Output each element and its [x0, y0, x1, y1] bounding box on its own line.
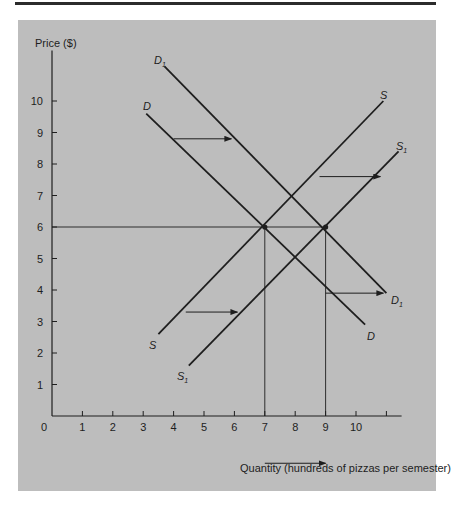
x-tick-label: 6 [231, 421, 237, 433]
y-tick-label: 5 [37, 253, 43, 265]
x-tick-label: 4 [171, 421, 177, 433]
y-tick-label: 9 [37, 127, 43, 139]
x-tick-label: 8 [292, 421, 298, 433]
x-tick-label: 7 [262, 421, 268, 433]
y-tick-label: 1 [37, 379, 43, 391]
y-tick-label: 10 [31, 95, 43, 107]
y-axis-title: Price ($) [35, 37, 77, 49]
x-tick-label: 9 [323, 421, 329, 433]
equilibrium-point [323, 224, 328, 229]
equilibrium-guides [52, 227, 326, 416]
curve-s [158, 101, 383, 334]
curve-label-d1: D1 [154, 54, 166, 68]
curves [146, 66, 398, 365]
x-tick-label: 3 [140, 421, 146, 433]
y-tick-label: 6 [37, 221, 43, 233]
curve-label-d: D [143, 100, 151, 112]
x-tick-label: 0 [41, 421, 47, 433]
curve-label-d1: D1 [391, 294, 403, 308]
y-tick-label: 7 [37, 190, 43, 202]
x-tick-label: 10 [350, 421, 362, 433]
y-tick-label: 2 [37, 347, 43, 359]
x-tick-label: 1 [79, 421, 85, 433]
x-axis-title: Quantity (hundreds of pizzas per semeste… [240, 462, 451, 474]
curve-label-s1: S1 [396, 140, 407, 154]
curve-label-s1: S1 [177, 370, 188, 384]
x-tick-label: 2 [110, 421, 116, 433]
y-tick-label: 4 [37, 284, 43, 296]
y-tick-label: 3 [37, 316, 43, 328]
curve-label-s: S [149, 339, 157, 351]
supply-demand-chart: 12345678910012345678910 Price ($) Quanti… [0, 0, 454, 508]
x-tick-label: 5 [201, 421, 207, 433]
axes: 12345678910012345678910 [31, 51, 402, 433]
curve-label-d: D [367, 330, 375, 342]
curve-d1 [164, 66, 386, 293]
chart-labels: Price ($) Quantity (hundreds of pizzas p… [35, 37, 451, 474]
equilibrium-point [262, 224, 267, 229]
shift-arrows [174, 139, 384, 463]
curve-label-s: S [380, 89, 388, 101]
y-tick-label: 8 [37, 158, 43, 170]
